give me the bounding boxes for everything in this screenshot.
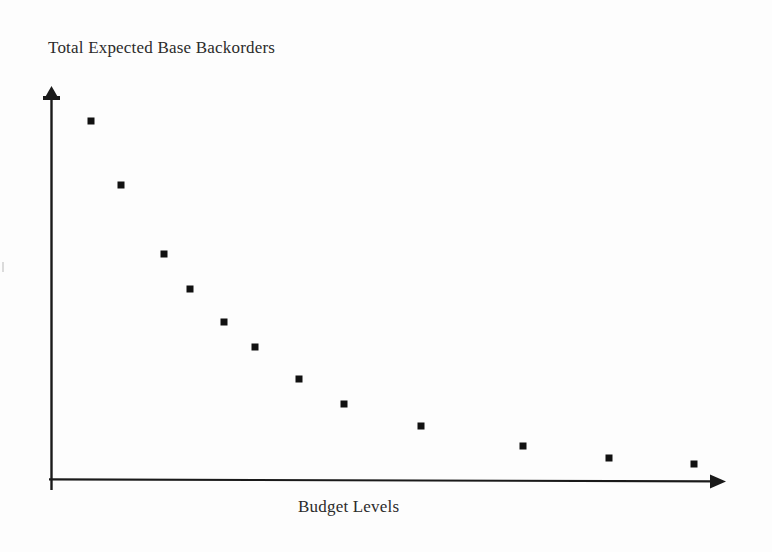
data-point-marker [520, 443, 527, 450]
data-point-marker [691, 461, 698, 468]
x-axis-label: Budget Levels [298, 497, 399, 517]
data-point-group [88, 118, 698, 468]
data-point-marker [252, 344, 259, 351]
y-axis-label: Total Expected Base Backorders [48, 38, 275, 58]
x-axis-arrow-right-icon [710, 475, 726, 489]
scan-speckle-artifact [2, 262, 4, 272]
x-axis-line [49, 479, 718, 481]
data-point-marker [418, 423, 425, 430]
data-point-marker [221, 319, 228, 326]
data-point-marker [606, 455, 613, 462]
data-point-marker [88, 118, 95, 125]
y-axis-arrow-base [43, 96, 60, 100]
data-point-marker [161, 251, 168, 258]
data-point-marker [187, 286, 194, 293]
scatter-plot-canvas [0, 0, 772, 552]
data-point-marker [341, 401, 348, 408]
data-point-marker [118, 182, 125, 189]
chart-figure: Total Expected Base Backorders Budget Le… [0, 0, 772, 552]
data-point-marker [296, 376, 303, 383]
